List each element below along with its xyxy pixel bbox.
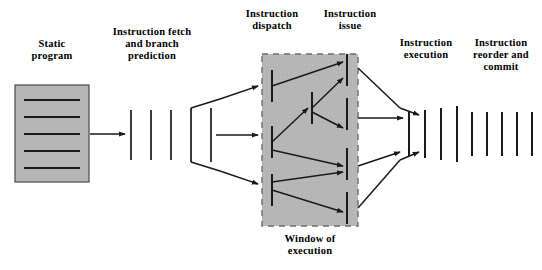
- commit-stage-bars: [472, 112, 532, 156]
- label-instruction-issue: Instruction issue: [303, 8, 397, 32]
- label-window-of-execution: Window of execution: [263, 233, 357, 257]
- fetch-stage-bars: [131, 108, 211, 162]
- arrows-fetch-to-dispatch: [191, 86, 258, 184]
- label-instruction-fetch: Instruction fetch and branch prediction: [97, 26, 207, 63]
- static-program-block: [15, 85, 89, 182]
- window-of-execution-region: [262, 54, 358, 226]
- label-instruction-reorder-commit: Instruction reorder and commit: [460, 37, 542, 74]
- diagram-canvas: Static program Instruction fetch and bra…: [0, 0, 542, 270]
- label-static-program: Static program: [16, 38, 88, 62]
